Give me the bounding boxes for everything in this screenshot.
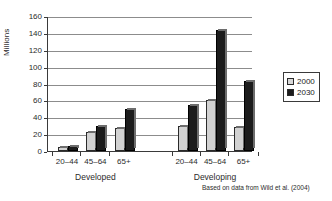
y-axis-title: Millions: [2, 0, 11, 56]
bar-2030-65+-developed: [125, 109, 135, 151]
y-axis-tick-label: 140: [20, 30, 42, 38]
bar-shadow-top: [246, 80, 255, 82]
y-axis-tick-label: 80: [20, 81, 42, 89]
legend-item-2030: 2030: [287, 87, 315, 98]
bar-shadow-top: [218, 29, 227, 31]
y-axis-tick-label: 160: [20, 13, 42, 21]
x-axis-tick-mark: [200, 152, 201, 156]
x-axis-group-label-developing: Developing: [175, 172, 255, 182]
y-axis-tick-label: 120: [20, 47, 42, 55]
x-axis-tick-mark: [80, 152, 81, 156]
bar-shadow-top: [190, 104, 199, 106]
bars-layer: [48, 17, 252, 151]
bar-2000-45-64-developing: [206, 100, 216, 151]
y-axis-tick-label: 100: [20, 64, 42, 72]
legend-swatch-icon-2000: [287, 78, 294, 85]
x-axis-tick-mark: [52, 152, 53, 156]
bar-shadow: [253, 80, 255, 148]
legend: 2000 2030: [283, 72, 320, 102]
y-axis-tick-mark: [44, 152, 47, 153]
bar-shadow-top: [127, 108, 136, 110]
y-axis-tick-label: 0: [20, 148, 42, 156]
bar-2030-65+-developing: [244, 81, 254, 151]
bar-shadow-top: [98, 125, 107, 127]
source-note: Based on data from Wild et al. (2004): [202, 184, 310, 191]
x-axis-tick-mark: [172, 152, 173, 156]
legend-swatch-icon-2030: [287, 89, 294, 96]
bar-2030-45-64-developed: [96, 126, 106, 151]
bar-shadow-top: [70, 145, 79, 147]
bar-chart: Millions 020406080100120140160 20–4445–6…: [0, 0, 332, 201]
legend-item-2000: 2000: [287, 76, 315, 87]
bar-shadow: [197, 104, 199, 148]
bar-shadow: [134, 108, 136, 148]
bar-2030-45-64-developing: [216, 30, 226, 151]
y-axis-tick-label: 40: [20, 114, 42, 122]
bar-2000-65+-developing: [234, 127, 244, 151]
bar-2030-20-44-developing: [188, 105, 198, 151]
legend-label-2000: 2000: [297, 77, 315, 86]
bar-2000-45-64-developed: [86, 132, 96, 151]
y-axis-tick-label: 20: [20, 131, 42, 139]
x-axis-group-label-developed: Developed: [55, 172, 135, 182]
x-axis-category-label: 65+: [223, 157, 263, 166]
x-axis-tick-mark: [258, 152, 259, 156]
x-axis-tick-mark: [228, 152, 229, 156]
x-axis-tick-mark: [109, 152, 110, 156]
bar-2000-20-44-developing: [178, 126, 188, 151]
bar-2000-20-44-developed: [58, 147, 68, 151]
bar-shadow: [105, 125, 107, 148]
legend-label-2030: 2030: [297, 88, 315, 97]
x-axis-category-label: 65+: [104, 157, 144, 166]
y-axis-tick-label: 60: [20, 97, 42, 105]
plot-area: [47, 17, 252, 152]
bar-shadow: [225, 29, 227, 148]
bar-2030-20-44-developed: [68, 146, 78, 151]
bar-2000-65+-developed: [115, 128, 125, 151]
